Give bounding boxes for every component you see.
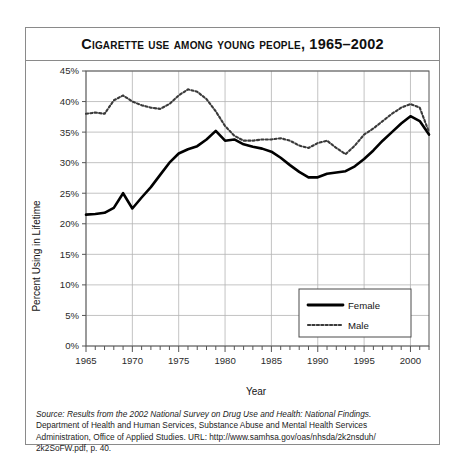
- source-note: Source: Results from the 2002 National S…: [36, 409, 431, 454]
- y-axis-ticks: 0%5%10%15%20%25%30%35%40%45%: [60, 65, 86, 351]
- y-axis-label: Percent Using in Lifetime: [31, 200, 42, 312]
- y-tick-label: 0%: [65, 340, 79, 351]
- series-line-female: [86, 116, 429, 214]
- y-tick-label: 20%: [60, 218, 80, 229]
- chart-title-band: Cigarette Use among Young People, 1965–2…: [26, 28, 439, 61]
- legend-label-male: Male: [348, 320, 369, 331]
- y-tick-label: 10%: [60, 279, 80, 290]
- source-line: Department of Health and Human Services,…: [36, 420, 431, 431]
- line-chart: 0%5%10%15%20%25%30%35%40%45% 19651970197…: [26, 61, 439, 401]
- legend-label-female: Female: [348, 300, 380, 311]
- source-line: Administration, Office of Applied Studie…: [36, 432, 431, 443]
- plot-area: 0%5%10%15%20%25%30%35%40%45% 19651970197…: [26, 61, 439, 401]
- x-tick-label: 1990: [307, 355, 328, 366]
- x-axis-minor-ticks: [86, 346, 429, 352]
- x-tick-label: 1975: [168, 355, 189, 366]
- x-axis-ticks: 19651970197519801985199019952000: [75, 355, 421, 366]
- source-line: Source: Results from the 2002 National S…: [36, 409, 431, 420]
- x-tick-label: 2000: [400, 355, 421, 366]
- data-series-group: [86, 89, 429, 214]
- source-line: 2k2SoFW.pdf, p. 40.: [36, 443, 431, 454]
- y-tick-label: 15%: [60, 249, 80, 260]
- y-tick-label: 40%: [60, 96, 80, 107]
- chart-legend: FemaleMale: [299, 289, 411, 337]
- x-axis-label: Year: [246, 386, 267, 397]
- y-tick-label: 25%: [60, 188, 80, 199]
- x-tick-label: 1995: [353, 355, 374, 366]
- y-tick-label: 30%: [60, 157, 80, 168]
- y-tick-label: 35%: [60, 127, 80, 138]
- page-title: Cigarette Use among Young People, 1965–2…: [81, 36, 384, 52]
- x-tick-label: 1985: [261, 355, 282, 366]
- y-tick-label: 45%: [60, 65, 80, 76]
- figure-container: Cigarette Use among Young People, 1965–2…: [25, 27, 440, 445]
- x-tick-label: 1965: [75, 355, 96, 366]
- x-tick-label: 1980: [214, 355, 235, 366]
- y-tick-label: 5%: [65, 310, 79, 321]
- x-tick-label: 1970: [122, 355, 143, 366]
